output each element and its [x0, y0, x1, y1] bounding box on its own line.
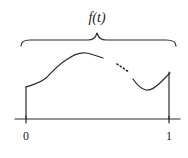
tick-label-1: 1 [166, 129, 172, 143]
function-curve-gap [117, 64, 129, 72]
curly-brace [21, 33, 176, 46]
tick-label-0: 0 [23, 129, 29, 143]
function-curve-left [26, 53, 103, 87]
function-curve-right [133, 73, 170, 90]
function-diagram: f(t) 0 1 [0, 0, 188, 158]
function-label: f(t) [88, 10, 105, 26]
